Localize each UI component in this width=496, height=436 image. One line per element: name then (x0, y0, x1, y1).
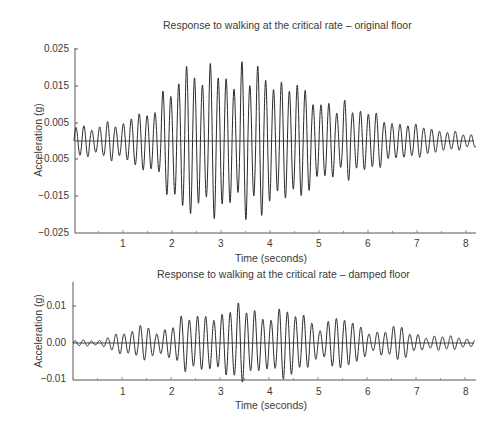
chart-canvas (0, 0, 496, 436)
bottom-signal-line (73, 303, 475, 382)
